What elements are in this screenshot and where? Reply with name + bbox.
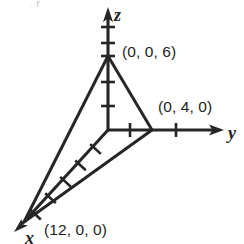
triangle-edge-x-to-z [24,56,108,222]
point-label-z-intercept: (0, 0, 6) [122,44,176,60]
triangle-edge-y-to-x [24,130,152,222]
figure-canvas: _ , r z y x (0, 0, 6) (0, 4, 0) (12, 0, … [0,0,244,244]
coordinate-diagram [0,0,244,244]
point-label-x-intercept: (12, 0, 0) [44,222,107,238]
point-label-y-intercept: (0, 4, 0) [158,99,212,115]
y-axis-label: y [228,124,236,142]
x-axis-label: x [25,229,34,244]
triangle-edge-z-to-y [108,56,152,130]
z-axis-label: z [114,6,121,24]
